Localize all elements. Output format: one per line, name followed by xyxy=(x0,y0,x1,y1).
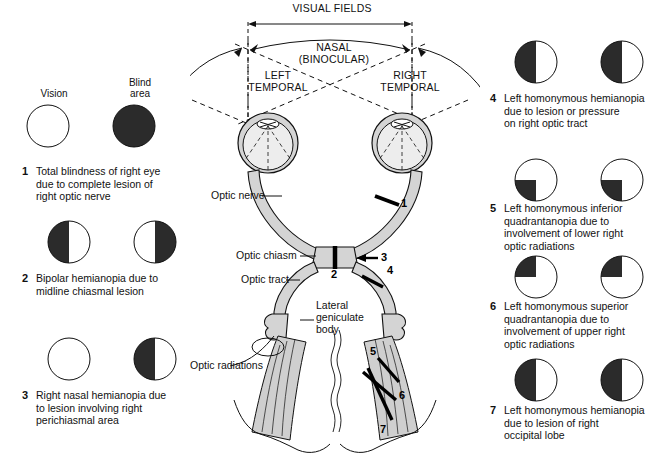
lesion-number-2: 2 xyxy=(331,268,337,280)
entry-6-text: Left homonymous superior quadrantanopia … xyxy=(504,300,628,350)
figure-root: Vision Blind area 1 Total blindness of r… xyxy=(0,0,658,454)
entry-7-number: 7 xyxy=(490,404,504,442)
entry-1-text: Total blindness of right eye due to comp… xyxy=(36,165,160,203)
legend-vision-label: Vision xyxy=(24,88,84,99)
entry-5: 5 Left homonymous inferior quadrantanopi… xyxy=(490,202,658,252)
lateral-geniculate-label-line3: body xyxy=(316,324,339,336)
legend-vision-disc xyxy=(26,104,70,148)
legend-blind-disc xyxy=(112,104,156,148)
lesion-number-3: 3 xyxy=(381,251,387,263)
entry-4: 4 Left homonymous hemianopia due to lesi… xyxy=(490,92,658,130)
optic-tract-label: Optic tract xyxy=(241,274,289,286)
entry-3-number: 3 xyxy=(22,389,36,427)
right-eyeball xyxy=(372,113,432,173)
visual-fields-title: VISUAL FIELDS xyxy=(272,3,392,15)
entry-6-right-field-disc xyxy=(600,255,644,299)
entry-7-right-field-disc xyxy=(600,358,644,402)
entry-2-text: Bipolar hemianopia due to midline chiasm… xyxy=(36,272,158,297)
entry-2: 2 Bipolar hemianopia due to midline chia… xyxy=(22,272,200,297)
entry-2-left-field-disc xyxy=(47,220,91,264)
entry-4-right-field-disc xyxy=(600,40,644,84)
legend-blind-label: Blind area xyxy=(110,77,170,99)
right-temporal-label-line1: RIGHT xyxy=(372,70,448,82)
entry-7-left-field-disc xyxy=(514,358,558,402)
entry-5-number: 5 xyxy=(490,202,504,252)
lateral-geniculate-label-line1: Lateral xyxy=(316,300,348,312)
left-temporal-label-line2: TEMPORAL xyxy=(234,82,322,94)
optic-nerve-label: Optic nerve xyxy=(211,190,265,202)
entry-2-right-field-disc xyxy=(133,220,177,264)
visual-pathway-diagram xyxy=(190,0,480,454)
entry-6-left-field-disc xyxy=(514,255,558,299)
lesion-number-5: 5 xyxy=(370,345,376,357)
lesion-number-1: 1 xyxy=(401,197,407,209)
entry-3: 3 Right nasal hemianopia due to lesion i… xyxy=(22,389,200,427)
entry-5-left-field-disc xyxy=(514,158,558,202)
lesion-mark-1 xyxy=(375,196,399,205)
entry-2-number: 2 xyxy=(22,272,36,297)
entry-1: 1 Total blindness of right eye due to co… xyxy=(22,165,200,203)
entry-3-text: Right nasal hemianopia due to lesion inv… xyxy=(36,389,166,427)
lesion-number-4: 4 xyxy=(387,264,393,276)
entry-3-left-field-disc xyxy=(47,337,91,381)
optic-radiations xyxy=(252,330,418,440)
nasal-label-line1: NASAL xyxy=(296,42,372,54)
left-temporal-label-line1: LEFT xyxy=(240,70,316,82)
entry-4-number: 4 xyxy=(490,92,504,130)
entry-4-left-field-disc xyxy=(514,40,558,84)
lesion-number-7: 7 xyxy=(380,423,386,435)
entry-7: 7 Left homonymous hemianopia due to lesi… xyxy=(490,404,658,442)
entry-1-number: 1 xyxy=(22,165,36,203)
optic-radiations-label: Optic radiations xyxy=(190,360,263,372)
nasal-label-line2: (BINOCULAR) xyxy=(286,54,382,66)
lateral-geniculate-label-line2: geniculate xyxy=(316,312,364,324)
entry-5-right-field-disc xyxy=(600,158,644,202)
optic-chiasm-label: Optic chiasm xyxy=(236,250,297,262)
entry-5-text: Left homonymous inferior quadrantanopia … xyxy=(504,202,623,252)
lesion-number-6: 6 xyxy=(399,389,405,401)
left-eyeball xyxy=(238,113,298,173)
entry-6-number: 6 xyxy=(490,300,504,350)
entry-6: 6 Left homonymous superior quadrantanopi… xyxy=(490,300,658,350)
right-temporal-label-line2: TEMPORAL xyxy=(366,82,454,94)
entry-4-text: Left homonymous hemianopia due to lesion… xyxy=(504,92,645,130)
entry-3-right-field-disc xyxy=(133,337,177,381)
entry-7-text: Left homonymous hemianopia due to lesion… xyxy=(504,404,645,442)
